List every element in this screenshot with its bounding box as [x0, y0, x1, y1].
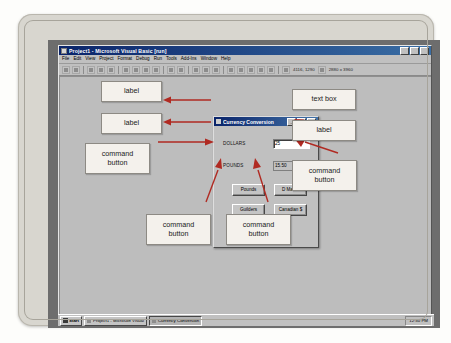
windows-taskbar[interactable]: Start Project1 - Microsoft Visual Curren… — [58, 314, 434, 326]
ide-close-button[interactable] — [420, 47, 429, 55]
screenshot-root: Project1 - Microsoft Visual Basic [run] … — [0, 0, 451, 343]
callout-text: label — [124, 87, 139, 95]
menu-run[interactable]: Run — [154, 56, 162, 62]
callout-text-line2: button — [315, 176, 335, 184]
toolbar-separator — [278, 66, 279, 74]
stop-icon[interactable] — [212, 66, 220, 74]
ide-menu-bar[interactable]: File Edit View Project Format Debug Run … — [59, 55, 431, 64]
callout-text-line2: button — [249, 230, 269, 238]
system-tray-clock[interactable]: 12:50 PM — [405, 316, 432, 326]
ide-title-text: Project1 - Microsoft Visual Basic [run] — [69, 48, 398, 54]
callout-label-second: label — [101, 113, 162, 134]
ide-maximize-button[interactable] — [410, 47, 419, 55]
arrow-command-button-bottom-right — [248, 158, 278, 202]
callout-label-right: label — [292, 120, 356, 141]
toolbar-separator — [118, 66, 119, 74]
currency-conversion-taskbar-icon — [152, 319, 156, 323]
monitor-bezel: Project1 - Microsoft Visual Basic [run] … — [18, 14, 434, 326]
start-button-label: Start — [69, 318, 79, 324]
toolbar-separator — [188, 66, 189, 74]
windows-logo-icon — [63, 318, 68, 323]
app-title-text: Currency Conversion — [223, 119, 285, 125]
add-project-icon[interactable] — [62, 66, 70, 74]
callout-text: label — [124, 119, 139, 127]
pounds-caption: POUNDS — [223, 163, 244, 169]
start-run-icon[interactable] — [192, 66, 200, 74]
break-icon[interactable] — [202, 66, 210, 74]
callout-text-line2: button — [169, 230, 189, 238]
taskbar-item-label: Project1 - Microsoft Visual — [93, 318, 144, 324]
toolbar-separator — [223, 66, 224, 74]
visual-basic-taskbar-icon — [87, 319, 91, 323]
menu-view[interactable]: View — [85, 56, 95, 62]
menu-format[interactable]: Format — [118, 56, 133, 62]
callout-text: text box — [311, 95, 336, 103]
callout-command-button-right: command button — [292, 160, 357, 191]
position-indicator-icon — [282, 66, 290, 74]
callout-command-button-bottom-right: command button — [226, 214, 291, 245]
callout-label-top: label — [101, 81, 162, 102]
ide-minimize-button[interactable] — [400, 47, 409, 55]
paste-icon[interactable] — [142, 66, 150, 74]
visual-basic-icon — [61, 48, 67, 54]
form-size-readout: 2880 x 3960 — [328, 67, 354, 73]
ide-window-buttons[interactable] — [400, 47, 429, 55]
menu-project[interactable]: Project — [99, 56, 113, 62]
menu-edit[interactable]: Edit — [73, 56, 81, 62]
add-form-icon[interactable] — [72, 66, 80, 74]
arrow-command-button-bottom-left — [196, 158, 226, 202]
menu-debug[interactable]: Debug — [136, 56, 150, 62]
callout-command-button-bottom-left: command button — [146, 214, 211, 245]
form-position-readout: 4116, 1290 — [292, 67, 316, 73]
menu-add-ins[interactable]: Add-Ins — [181, 56, 197, 62]
open-project-icon[interactable] — [97, 66, 105, 74]
toolbar-separator — [163, 66, 164, 74]
toolbox-icon[interactable] — [267, 66, 275, 74]
callout-command-button-left: command button — [85, 143, 150, 174]
taskbar-item-currency-conversion[interactable]: Currency Conversion — [149, 316, 202, 326]
ide-toolbar[interactable]: 4116, 1290 2880 x 3960 — [59, 64, 431, 76]
arrow-command-button-left — [158, 137, 214, 147]
copy-icon[interactable] — [132, 66, 140, 74]
form-layout-icon[interactable] — [247, 66, 255, 74]
dollars-caption: DOLLARS — [223, 141, 246, 147]
taskbar-item-visual-basic[interactable]: Project1 - Microsoft Visual — [84, 316, 147, 326]
taskbar-item-label: Currency Conversion — [158, 318, 199, 324]
toolbar-separator — [83, 66, 84, 74]
menu-file[interactable]: File — [62, 56, 69, 62]
size-indicator-icon — [318, 66, 326, 74]
object-browser-icon[interactable] — [257, 66, 265, 74]
app-window-icon — [216, 119, 221, 124]
menu-help[interactable]: Help — [221, 56, 230, 62]
arrow-label-second — [163, 117, 213, 127]
ide-title-bar[interactable]: Project1 - Microsoft Visual Basic [run] — [59, 46, 431, 55]
start-button[interactable]: Start — [60, 316, 82, 326]
menu-tools[interactable]: Tools — [166, 56, 177, 62]
save-project-icon[interactable] — [107, 66, 115, 74]
callout-text-line2: button — [108, 159, 128, 167]
callout-text: label — [316, 126, 331, 134]
menu-editor-icon[interactable] — [87, 66, 95, 74]
project-explorer-icon[interactable] — [227, 66, 235, 74]
find-icon[interactable] — [152, 66, 160, 74]
undo-icon[interactable] — [167, 66, 175, 74]
menu-window[interactable]: Window — [201, 56, 217, 62]
cut-icon[interactable] — [122, 66, 130, 74]
properties-window-icon[interactable] — [237, 66, 245, 74]
callout-text-box-right: text box — [292, 89, 356, 110]
redo-icon[interactable] — [177, 66, 185, 74]
arrow-label-top — [163, 95, 213, 105]
